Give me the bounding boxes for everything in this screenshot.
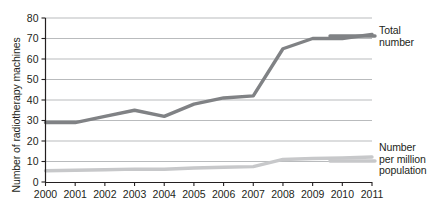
x-tick-label: 2007	[242, 188, 266, 200]
y-tick-label: 20	[27, 135, 39, 147]
x-tick-label: 2005	[182, 188, 206, 200]
legend-label-total-number: Total number	[379, 25, 414, 48]
legend-label-per-million-population: Number per million population	[379, 142, 426, 177]
x-tick-labels-group: 2000200120022003200420052006200720082009…	[34, 188, 384, 200]
y-tick-label: 60	[27, 53, 39, 65]
y-tick-label: 30	[27, 114, 39, 126]
x-tick-label: 2000	[34, 188, 58, 200]
x-tick-label: 2006	[212, 188, 236, 200]
y-tick-label: 40	[27, 94, 39, 106]
y-tick-label: 80	[27, 12, 39, 24]
x-tick-label: 2008	[271, 188, 295, 200]
x-tick-label: 2004	[153, 188, 177, 200]
x-tick-label: 2010	[331, 188, 355, 200]
y-tick-label: 0	[33, 176, 39, 188]
y-tick-label: 70	[27, 32, 39, 44]
x-tick-label: 2003	[123, 188, 147, 200]
x-tick-label: 2002	[93, 188, 117, 200]
x-tick-label: 2011	[361, 188, 384, 200]
legend-line-swatches	[330, 36, 375, 161]
plot-area: 01020304050607080 2000200120022003200420…	[0, 0, 444, 214]
x-tick-label: 2001	[64, 188, 88, 200]
radiotherapy-machines-line-chart: Number of radiotherapy machines 01020304…	[0, 0, 444, 214]
y-tick-labels-group: 01020304050607080	[27, 12, 39, 188]
data-series-group	[46, 34, 373, 170]
series-line-per-million-population	[46, 157, 373, 171]
series-line-total-number	[46, 34, 373, 122]
y-tick-label: 10	[27, 155, 39, 167]
y-tick-label: 50	[27, 73, 39, 85]
x-tick-label: 2009	[301, 188, 325, 200]
